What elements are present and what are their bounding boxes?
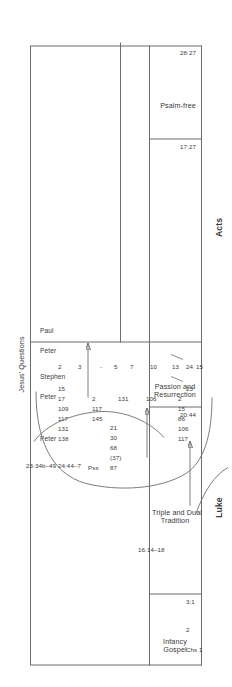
bracket-curve-inner [34,411,164,441]
connector-overlay [0,0,232,687]
bracket-curve-acts [196,467,228,513]
figure-stage: Infancy Gospel Triple and Dual Tradition… [0,0,232,687]
figure-canvas: Infancy Gospel Triple and Dual Tradition… [0,0,232,687]
bracket-curve-outer [36,391,212,488]
